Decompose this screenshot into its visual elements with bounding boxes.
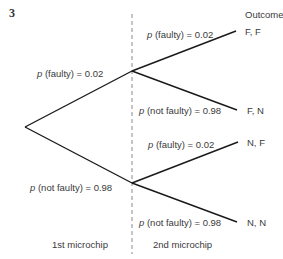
- prob-text: (faulty) = 0.02: [45, 68, 103, 79]
- p-symbol: p: [148, 139, 153, 150]
- prob-text: (faulty) = 0.02: [155, 29, 213, 40]
- label-first-faulty: p (faulty) = 0.02: [37, 69, 103, 79]
- prob-text: (not faulty) = 0.98: [38, 182, 112, 193]
- p-symbol: p: [37, 68, 42, 79]
- outcome-fn: F, N: [247, 106, 264, 116]
- branch-root-to-not-faulty: [25, 127, 132, 183]
- p-symbol: p: [139, 105, 144, 116]
- branch-root-to-faulty: [25, 71, 132, 127]
- outcome-nf: N, F: [247, 138, 265, 148]
- outcome-header: Outcome: [245, 10, 283, 20]
- label-second-fn: p (not faulty) = 0.98: [139, 106, 221, 116]
- label-second-nf: p (faulty) = 0.02: [148, 140, 214, 150]
- p-symbol: p: [139, 217, 144, 228]
- prob-text: (faulty) = 0.02: [156, 139, 214, 150]
- label-first-not-faulty: p (not faulty) = 0.98: [30, 183, 112, 193]
- prob-text: (not faulty) = 0.98: [147, 105, 221, 116]
- label-second-nn: p (not faulty) = 0.98: [139, 218, 221, 228]
- question-number: 3: [9, 7, 15, 19]
- outcome-nn: N, N: [247, 218, 266, 228]
- p-symbol: p: [147, 29, 152, 40]
- prob-text: (not faulty) = 0.98: [147, 217, 221, 228]
- label-second-ff: p (faulty) = 0.02: [147, 30, 213, 40]
- stage-label-second: 2nd microchip: [153, 240, 212, 250]
- outcome-ff: F, F: [245, 27, 261, 37]
- stage-label-first: 1st microchip: [52, 240, 108, 250]
- probability-tree-diagram: 3 Outcome p (faulty) = 0.02 p (not fault…: [0, 0, 283, 259]
- p-symbol: p: [30, 182, 35, 193]
